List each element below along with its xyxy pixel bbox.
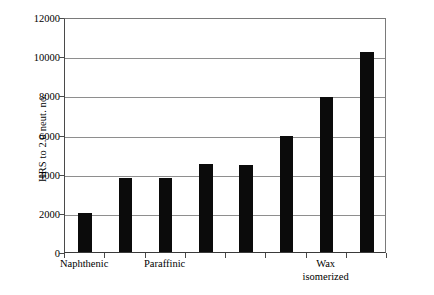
x-axis-category-label-line1: Wax [316,258,335,269]
x-axis-tick-mark [225,253,226,258]
y-axis-tick-label: 2000 [22,208,60,219]
x-axis-tick-mark [386,253,387,258]
y-axis-tick-mark [59,214,64,215]
bars-group [65,19,385,252]
y-axis-tick-label: 0 [22,248,60,259]
y-axis-tick-label: 10000 [22,52,60,63]
bar [360,52,374,252]
bar [280,136,294,252]
y-axis-tick-mark [59,96,64,97]
y-axis-tick-mark [59,136,64,137]
y-axis-tick-mark [59,57,64,58]
y-axis-tick-label: 8000 [22,91,60,102]
x-axis-category-label-line2: isomerized [303,271,349,284]
x-axis-category-label: Naphthenic [60,258,108,271]
x-axis-category-label-line1: Naphthenic [60,258,108,269]
y-axis-tick-label: 4000 [22,169,60,180]
bar [199,164,213,252]
y-axis-tick-label: 6000 [22,130,60,141]
bar-chart: HRS to 2.0 neut. no. 0200040006000800010… [0,0,434,295]
x-axis-category-label-line1: Paraffinic [144,258,185,269]
bar [320,97,334,252]
bar [159,178,173,252]
x-axis-tick-mark [265,253,266,258]
x-axis-category-label: Paraffinic [144,258,185,271]
x-axis-category-label: Waxisomerized [303,258,349,283]
bar [78,213,92,252]
y-axis-tick-labels: 020004000600080001000012000 [22,18,60,253]
y-axis-tick-mark [59,175,64,176]
y-axis-tick-mark [59,18,64,19]
bar [119,178,133,252]
bar [239,165,253,252]
plot-area [64,18,386,253]
y-axis-tick-label: 12000 [22,13,60,24]
